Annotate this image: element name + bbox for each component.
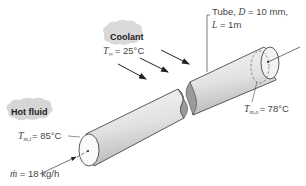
coolant-label: Coolant (103, 20, 144, 45)
inlet-temperature: Tm,i= 85°C (18, 130, 62, 142)
coolant-label-text: Coolant (110, 32, 144, 42)
coolant-arrow-icon (140, 58, 168, 72)
coolant-arrow-icon (118, 64, 146, 79)
outlet-temperature: Tm,o= 78°C (244, 103, 289, 115)
tube-length-label: L = 1m (211, 19, 241, 30)
tube-inlet-segment (79, 89, 188, 166)
inlet-temperature-leader (68, 136, 80, 137)
mass-flow-rate: ṁ = 18 kg/h (10, 168, 59, 179)
tube-diameter-label: Tube, D = 10 mm, (212, 6, 288, 17)
tube-inlet-opening (79, 134, 99, 166)
hot-fluid-label: Hot fluid (6, 98, 52, 121)
tube-leader-line (207, 15, 210, 72)
coolant-temperature: T∞= 25°C (103, 45, 144, 57)
tube-outlet-opening (261, 47, 279, 79)
tube-heat-transfer-diagram: Coolant T∞= 25°C Tube, D = 10 mm, L = 1m (0, 0, 306, 186)
coolant-arrow-icon (161, 50, 189, 64)
hot-fluid-label-text: Hot fluid (11, 107, 48, 117)
